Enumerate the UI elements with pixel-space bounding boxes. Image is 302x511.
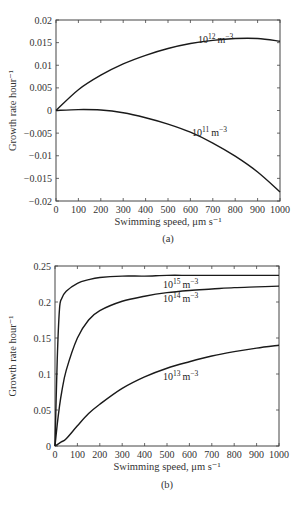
x-tick-label: 300 — [116, 204, 131, 215]
series-label: 1013m−3 — [163, 369, 199, 382]
y-tick-label: 0.015 — [30, 37, 53, 48]
y-tick-label: 0.1 — [39, 369, 52, 380]
x-tick-label: 100 — [71, 204, 86, 215]
x-tick-label: 400 — [137, 449, 152, 460]
x-tick-label: 600 — [183, 204, 198, 215]
panel-label: (b) — [161, 479, 174, 491]
x-tick-label: 900 — [249, 449, 264, 460]
plot-frame — [56, 20, 280, 201]
x-axis-label: Swimming speed, μm s⁻¹ — [114, 216, 221, 227]
y-tick-label: 0.02 — [35, 15, 53, 26]
y-tick-label: 0.15 — [34, 333, 52, 344]
y-tick-label: 0.05 — [34, 405, 52, 416]
x-tick-label: 600 — [182, 449, 197, 460]
chart-panel-a: 01002003004005006007008009001000−0.02−0.… — [7, 15, 290, 246]
series-line — [55, 345, 279, 446]
x-tick-label: 0 — [54, 204, 59, 215]
x-tick-label: 800 — [227, 449, 242, 460]
x-tick-label: 800 — [228, 204, 243, 215]
y-tick-label: 0.2 — [39, 297, 52, 308]
y-tick-label: 0.01 — [35, 60, 53, 71]
x-tick-label: 700 — [205, 204, 220, 215]
y-tick-label: −0.005 — [24, 128, 52, 139]
y-axis-label: Growth rate hour⁻¹ — [7, 315, 18, 396]
chart-panel-b: 0100200300400500600700800900100000.050.1… — [7, 261, 289, 492]
y-tick-label: −0.015 — [24, 173, 52, 184]
x-axis-label: Swimming speed, μm s⁻¹ — [113, 461, 220, 472]
series-label: 1012m−3 — [198, 32, 234, 45]
series-line — [56, 38, 280, 110]
series-line — [55, 286, 279, 446]
x-tick-label: 900 — [250, 204, 265, 215]
x-tick-label: 500 — [160, 449, 175, 460]
figure: 01002003004005006007008009001000−0.02−0.… — [0, 0, 302, 511]
series-label: 1015m−3 — [163, 277, 199, 290]
y-tick-label: −0.02 — [29, 196, 52, 207]
x-tick-label: 200 — [92, 449, 107, 460]
y-tick-label: 0 — [47, 105, 52, 116]
y-tick-label: 0.005 — [30, 82, 53, 93]
x-tick-label: 400 — [138, 204, 153, 215]
x-tick-label: 100 — [70, 449, 85, 460]
series-label: 1014m−3 — [163, 291, 199, 304]
x-tick-label: 300 — [115, 449, 130, 460]
series-line — [56, 110, 280, 192]
y-axis-label: Growth rate hour⁻¹ — [7, 70, 18, 151]
x-tick-label: 700 — [204, 449, 219, 460]
x-tick-label: 0 — [53, 449, 58, 460]
x-tick-label: 1000 — [269, 449, 289, 460]
series-label: 1011m−3 — [192, 125, 227, 138]
y-tick-label: 0 — [46, 441, 51, 452]
x-tick-label: 500 — [161, 204, 176, 215]
x-tick-label: 1000 — [270, 204, 290, 215]
x-tick-label: 200 — [93, 204, 108, 215]
panel-label: (a) — [162, 233, 174, 245]
y-tick-label: −0.01 — [29, 150, 52, 161]
y-tick-label: 0.25 — [34, 261, 52, 272]
